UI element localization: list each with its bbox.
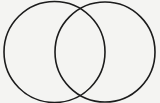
venn-diagram <box>0 0 160 103</box>
venn-svg-surface <box>0 0 160 103</box>
diagram-background <box>0 0 160 103</box>
